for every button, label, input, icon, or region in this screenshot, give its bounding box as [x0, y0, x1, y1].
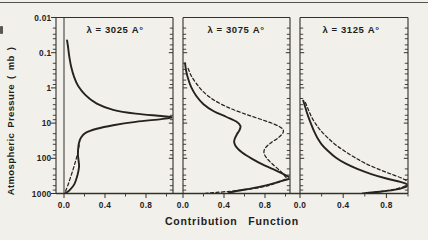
- x-axis-label: Contribution Function: [165, 215, 299, 227]
- y-axis-label: Atmospheric Pressure ( mb ): [5, 47, 16, 196]
- panel-1-solid-curve: [65, 40, 172, 193]
- panel-3-solid-curve: [303, 101, 408, 194]
- panel-3-x-tick-label-0.8: 0.8: [380, 200, 393, 210]
- panel-3-x-tick-label-0.0: 0.0: [294, 200, 307, 210]
- y-tick-label-100: 100: [37, 153, 52, 163]
- panel-1-curves: [65, 40, 173, 193]
- panel-3-curves: [303, 101, 408, 194]
- panel-1-wavelength-title: λ = 3025 A°: [86, 24, 143, 35]
- y-tick-label-0.01: 0.01: [34, 13, 51, 23]
- y-axis-tick-labels: 0.010.11101001000: [32, 13, 52, 199]
- panel-1-x-tick-label-0.0: 0.0: [58, 200, 71, 210]
- panel-2-wavelength-title: λ = 3075 A°: [207, 24, 264, 35]
- panel-2-x-tick-label-0.0: 0.0: [177, 200, 190, 210]
- panel-2-dashed-curve: [188, 68, 286, 193]
- panel-3-x-tick-label-0.4: 0.4: [337, 200, 350, 210]
- panel-2-solid-curve: [185, 63, 290, 193]
- chart-plot-area: 0.010.111010010000.00.40.80.00.40.80.00.…: [0, 0, 428, 240]
- y-tick-label-0.1: 0.1: [39, 48, 52, 58]
- scanned-chart-figure: 0.010.111010010000.00.40.80.00.40.80.00.…: [0, 0, 428, 240]
- panel-3-wavelength-title: λ = 3125 A°: [322, 24, 379, 35]
- y-tick-label-10: 10: [42, 118, 52, 128]
- y-tick-label-1: 1: [47, 83, 52, 93]
- panel-2-x-tick-label-0.8: 0.8: [259, 200, 272, 210]
- panel-1-x-tick-label-0.4: 0.4: [99, 200, 112, 210]
- panel-2-curves: [185, 63, 290, 193]
- panel-2-x-tick-label-0.4: 0.4: [218, 200, 231, 210]
- y-tick-label-1000: 1000: [32, 189, 52, 199]
- x-axis-ticks: 0.00.40.80.00.40.80.00.40.8: [58, 194, 408, 210]
- panel-1-x-tick-label-0.8: 0.8: [140, 200, 153, 210]
